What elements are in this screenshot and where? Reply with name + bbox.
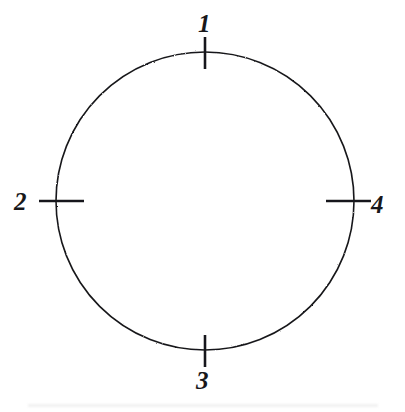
label-point-1: 1 bbox=[198, 11, 211, 36]
label-point-3: 3 bbox=[196, 368, 209, 393]
circle-diagram bbox=[0, 0, 405, 412]
label-point-2: 2 bbox=[14, 189, 27, 214]
main-circle bbox=[56, 52, 354, 350]
label-point-4: 4 bbox=[371, 192, 384, 217]
scan-artifact bbox=[28, 404, 378, 407]
figure-canvas: 1 2 3 4 bbox=[0, 0, 405, 412]
